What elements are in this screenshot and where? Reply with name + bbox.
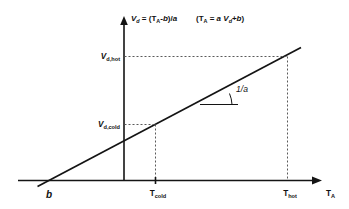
y-tick-label-vd-hot: Vd,hot [101,52,120,62]
equation-header-left: Vd = (TA-b)/a [131,14,178,24]
x-axis-arrow-icon [312,176,322,184]
x-tick-label-t-cold: Tcold [150,189,167,199]
x-tick-label-t-hot: Thot [283,189,297,199]
y-axis-arrow-icon [120,16,128,25]
slope-angle-arc [230,94,233,105]
slope-label: 1/a [236,84,248,94]
calibration-line [38,48,302,187]
intercept-label-b: b [46,189,52,200]
calibration-line-diagram: Vd = (TA-b)/a (TA = a Vd+b) 1/a Vd,hot V… [0,0,349,209]
diagram-canvas: Vd = (TA-b)/a (TA = a Vd+b) 1/a Vd,hot V… [0,0,349,209]
x-axis-title: TA [326,189,335,199]
equation-header-right: (TA = a Vd+b) [196,14,244,24]
y-tick-label-vd-cold: Vd,cold [98,120,121,130]
